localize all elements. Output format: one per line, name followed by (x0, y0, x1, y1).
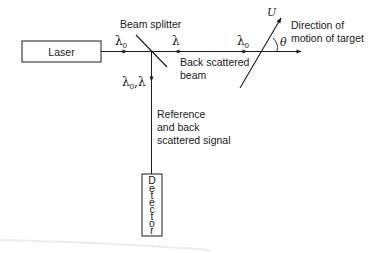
back-beam: λ λ0 Back scattered beam (151, 34, 301, 81)
target: U θ Direction of motion of target (240, 6, 364, 88)
back-scattered-line2: beam (180, 69, 207, 81)
laser-box: Laser (22, 41, 101, 62)
beam-splitter-label: Beam splitter (120, 18, 182, 30)
reference-line2: and back (157, 121, 200, 133)
lambda0-target: λ0 (237, 34, 250, 50)
direction-line1: Direction of (291, 19, 344, 31)
reference-line3: scattered signal (157, 134, 231, 146)
reference-line1: Reference (157, 108, 206, 120)
lambda0-lambda-label: λ0,λ (122, 75, 146, 91)
velocity-u-label: U (267, 6, 277, 19)
lambda-back: λ (172, 34, 180, 48)
laser-label: Laser (48, 46, 75, 58)
theta-label: θ (280, 36, 287, 49)
angle-arc (273, 38, 278, 51)
laser-doppler-diagram: Laser λ0 Beam splitter λ λ0 Back scatter… (0, 0, 382, 253)
direction-line2: motion of target (291, 32, 364, 44)
back-scattered-line1: Back scattered (180, 56, 250, 68)
lambda0-incident: λ0 (115, 34, 128, 50)
reference-beam: λ0,λ Reference and back scattered signal (122, 52, 231, 174)
scan-artifact (0, 240, 210, 250)
detector-letter: r (150, 224, 154, 236)
detector-box: D e t e c t o r (142, 174, 162, 236)
